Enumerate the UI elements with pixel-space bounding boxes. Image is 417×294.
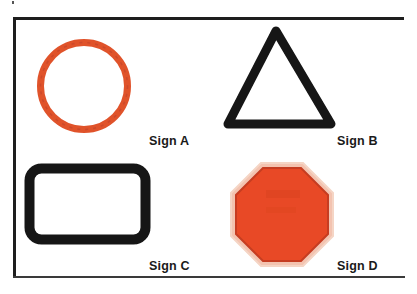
sign-c-label: Sign C — [149, 259, 190, 273]
sign-d-label: Sign D — [337, 259, 378, 273]
sign-c-rounded-rectangle-icon — [30, 169, 146, 240]
sign-a-circle-icon — [41, 43, 128, 130]
sign-b-label: Sign B — [337, 134, 378, 148]
sign-b-triangle-icon — [228, 31, 331, 124]
sign-a-label: Sign A — [149, 134, 189, 148]
sign-d-octagon-icon — [231, 163, 333, 266]
